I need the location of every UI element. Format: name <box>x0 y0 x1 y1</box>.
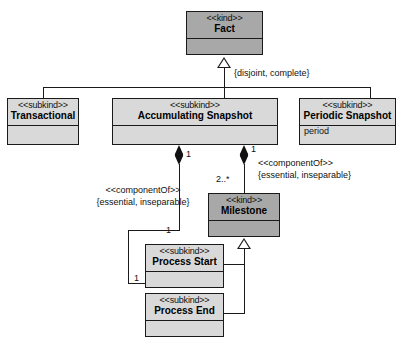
generalization-drop-transactional <box>43 87 44 98</box>
composition-line-left-branch-vertical <box>128 230 129 283</box>
class-box-accumulating-snapshot[interactable]: <<subkind>> Accumulating Snapshot <box>112 98 278 145</box>
stereotype-process-start: <<subkind>> <box>148 247 221 256</box>
generalization-drop-periodic-snapshot <box>370 87 371 98</box>
classname-periodic-snapshot: Periodic Snapshot <box>302 111 393 122</box>
class-box-fact[interactable]: <<kind>> Fact <box>186 11 263 55</box>
association-label-left: <<componentOf>> {essential, inseparable} <box>78 185 208 208</box>
association-constraint-left: {essential, inseparable} <box>78 197 208 209</box>
class-header-process-end: <<subkind>> Process End <box>146 294 223 321</box>
multiplicity-snapshot-to-start: 1 <box>186 149 191 159</box>
generalization-stem-fact <box>224 68 225 87</box>
class-header-milestone: <<kind>> Milestone <box>209 194 279 221</box>
class-box-periodic-snapshot[interactable]: <<subkind>> Periodic Snapshot period <box>299 98 396 145</box>
classname-process-end: Process End <box>148 306 221 317</box>
stereotype-transactional: <<subkind>> <box>10 101 76 110</box>
class-box-process-end[interactable]: <<subkind>> Process End <box>145 293 224 337</box>
class-header-transactional: <<subkind>> Transactional <box>8 99 78 126</box>
attributes-fact <box>187 39 262 52</box>
multiplicity-milestone-target: 2..* <box>216 174 230 184</box>
stereotype-process-end: <<subkind>> <box>148 296 221 305</box>
association-constraint-right: {essential, inseparable} <box>258 170 410 182</box>
composition-line-right-vertical <box>244 164 245 193</box>
attributes-process-start <box>146 272 223 285</box>
attributes-accumulating-snapshot <box>113 126 277 139</box>
generalization-stem-milestone <box>244 249 245 313</box>
association-label-right: <<componentOf>> {essential, inseparable} <box>258 158 410 181</box>
generalization-crossbar-fact <box>43 87 370 88</box>
class-box-milestone[interactable]: <<kind>> Milestone <box>208 193 280 237</box>
attributes-transactional <box>8 126 78 139</box>
composition-line-left-branch-top <box>128 230 180 231</box>
stereotype-milestone: <<kind>> <box>211 196 277 205</box>
uml-class-diagram: <<kind>> Fact {disjoint, complete} <<sub… <box>0 0 416 348</box>
class-header-accumulating-snapshot: <<subkind>> Accumulating Snapshot <box>113 99 277 126</box>
composition-line-left-branch-bottom <box>128 283 145 284</box>
association-stereotype-left: <<componentOf>> <box>78 185 208 197</box>
generalization-drop-accumulating-snapshot <box>224 87 225 98</box>
class-header-periodic-snapshot: <<subkind>> Periodic Snapshot <box>300 99 395 126</box>
classname-fact: Fact <box>189 24 260 35</box>
generalization-branch-process-start <box>224 264 245 265</box>
classname-accumulating-snapshot: Accumulating Snapshot <box>115 111 275 122</box>
attributes-process-end <box>146 321 223 334</box>
classname-process-start: Process Start <box>148 257 221 268</box>
generalization-branch-process-end <box>224 313 245 314</box>
attributes-periodic-snapshot: period <box>300 126 395 141</box>
class-box-transactional[interactable]: <<subkind>> Transactional <box>7 98 79 145</box>
attributes-milestone <box>209 221 279 234</box>
multiplicity-snapshot-to-milestone: 1 <box>251 144 256 154</box>
class-header-fact: <<kind>> Fact <box>187 12 262 39</box>
stereotype-fact: <<kind>> <box>189 14 260 23</box>
stereotype-accumulating-snapshot: <<subkind>> <box>115 101 275 110</box>
class-header-process-start: <<subkind>> Process Start <box>146 245 223 272</box>
class-box-process-start[interactable]: <<subkind>> Process Start <box>145 244 224 288</box>
composition-diamond-left <box>175 145 184 165</box>
classname-milestone: Milestone <box>211 206 277 217</box>
generalization-constraint-label: {disjoint, complete} <box>234 68 310 79</box>
multiplicity-process-end-end: 1 <box>134 273 139 283</box>
composition-diamond-right <box>240 145 249 165</box>
classname-transactional: Transactional <box>10 111 76 122</box>
association-stereotype-right: <<componentOf>> <box>258 158 410 170</box>
stereotype-periodic-snapshot: <<subkind>> <box>302 101 393 110</box>
